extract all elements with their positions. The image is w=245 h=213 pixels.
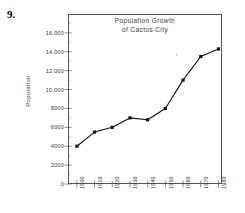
scan-speck <box>176 54 177 55</box>
population-line <box>77 49 219 146</box>
data-point <box>181 79 184 82</box>
data-point <box>199 55 202 58</box>
plot-canvas <box>0 0 245 213</box>
data-point <box>146 118 149 121</box>
x-axis-ticks <box>77 181 219 188</box>
data-point <box>217 47 220 50</box>
data-point <box>128 116 131 119</box>
data-point <box>111 126 114 129</box>
population-data-points <box>75 47 220 147</box>
chart-figure: 9. Population Growth of Cactus City Popu… <box>0 0 245 213</box>
y-axis-ticks <box>65 23 72 184</box>
data-point <box>93 130 96 133</box>
data-point <box>75 145 78 148</box>
data-point <box>164 107 167 110</box>
